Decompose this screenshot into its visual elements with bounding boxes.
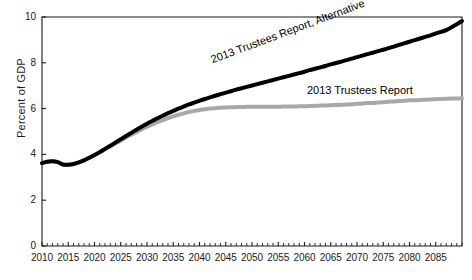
chart-figure: Percent of GDP 0246810 20102015202020252… <box>0 0 472 280</box>
y-tick-label: 0 <box>14 240 36 251</box>
axes-lines <box>42 17 462 246</box>
tick-marks <box>42 17 462 246</box>
y-tick-label: 6 <box>14 103 36 114</box>
y-tick-label: 2 <box>14 194 36 205</box>
x-tick-label: 2085 <box>418 252 454 263</box>
series-label-baseline: 2013 Trustees Report <box>307 84 413 96</box>
plot-area <box>0 0 472 280</box>
y-tick-label: 8 <box>14 57 36 68</box>
y-tick-label: 10 <box>14 11 36 22</box>
y-tick-label: 4 <box>14 148 36 159</box>
